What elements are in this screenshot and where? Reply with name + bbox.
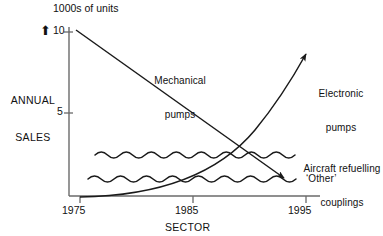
series-label-mechanical-pumps: Mechanical pumps (140, 53, 220, 143)
x-tick-label-1975: 1975 (62, 205, 85, 217)
units-label: 1000s of units (53, 3, 118, 15)
y-axis-title-line-2: SALES (4, 131, 62, 143)
up-arrow-icon: ⬆ (40, 24, 51, 37)
series-line-aircraft-refuelling-couplings (95, 152, 295, 158)
series-label-mechanical-pumps-line-1: Mechanical (140, 75, 220, 86)
series-label-electronic-pumps-line-1: Electronic (303, 88, 379, 99)
series-label-electronic-pumps-line-2: pumps (303, 122, 379, 133)
x-axis-title: SECTOR (165, 222, 210, 234)
y-tick-label-10: 10 (53, 25, 65, 37)
sales-by-sector-chart: 1000s of units ⬆ 10 5 ANNUAL SALES 1975 … (0, 0, 383, 236)
y-axis-title-line-1: ANNUAL (4, 94, 62, 106)
series-label-mechanical-pumps-line-2: pumps (140, 109, 220, 120)
series-label-aircraft-refuelling-couplings: Aircraft refuelling couplings (301, 141, 383, 231)
series-label-aircraft-line-2: couplings (301, 197, 383, 208)
x-tick-label-1985: 1985 (175, 205, 198, 217)
series-label-other: ‘Other’ (306, 173, 337, 184)
y-axis-title: ANNUAL SALES (4, 69, 62, 168)
